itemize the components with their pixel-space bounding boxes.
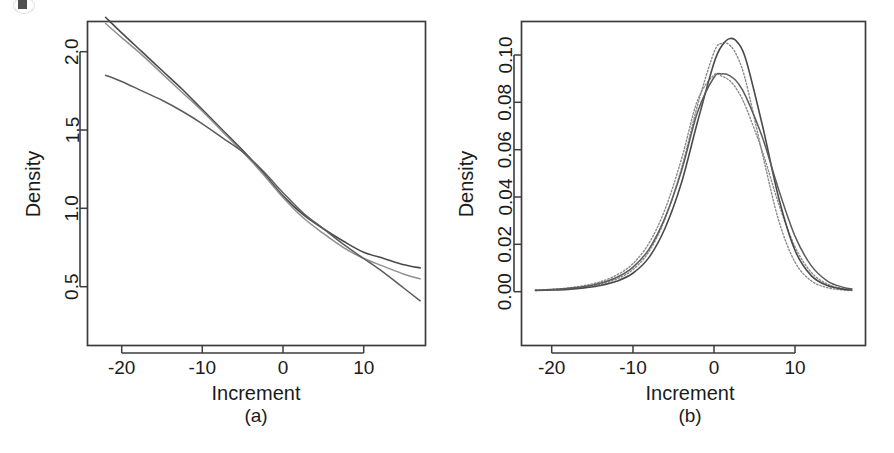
panel-b-y-axis: 0.10 0.08 0.06 0.04 0.02 0.00 [495,37,522,311]
panel-b-ytick-label-3: 0.04 [495,178,516,215]
panel-a-caption: (a) [196,405,316,427]
panel-b-ylabel: Density [455,151,477,218]
panel-b-caption: (b) [630,405,750,427]
panel-b-ytick-label-4: 0.02 [495,226,516,263]
figure-container: 2.0 1.5 1.0 0.5 -20 -10 0 10 Increment D… [0,0,894,453]
panel-b-ytick-label-5: 0.00 [495,273,516,310]
panel-b-xtick-label-0: -20 [538,357,565,378]
panel-b-curve-4 [535,73,851,290]
panel-b-curve-2 [535,43,851,291]
panel-b-ytick-label-0: 0.10 [495,37,516,74]
panel-b-ytick-label-1: 0.08 [495,84,516,121]
panel-b: 0.10 0.08 0.06 0.04 0.02 0.00 -20 -10 0 … [0,0,894,453]
panel-b-ytick-label-2: 0.06 [495,131,516,168]
panel-b-curve-3 [535,73,851,290]
panel-b-xtick-label-1: -10 [619,357,646,378]
panel-b-x-axis: -20 -10 0 10 [538,346,806,379]
panel-b-xlabel: Increment [646,382,735,404]
panel-b-curve-1 [535,38,851,290]
panel-b-xtick-label-3: 10 [784,357,805,378]
panel-b-xtick-label-2: 0 [709,357,720,378]
panel-b-plot-frame [522,22,866,346]
